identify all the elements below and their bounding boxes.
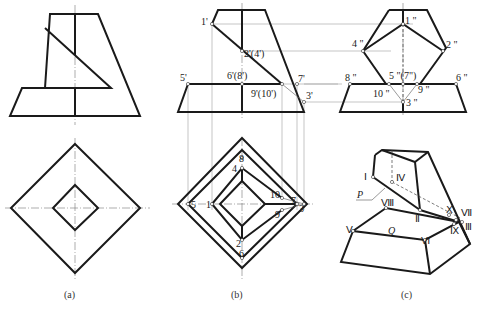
label-8: 8 (239, 153, 244, 164)
iso-upper-edge (415, 162, 420, 210)
label-6: 6 (239, 248, 244, 259)
caption-b: (b) (231, 289, 243, 301)
label-7: 7 (291, 195, 296, 206)
label-3-prime: 3' (306, 90, 313, 101)
label-9-10-prime: 9'(10') (251, 88, 276, 100)
iso-upper-edge (415, 152, 428, 162)
label-1-prime: 1' (201, 16, 208, 27)
label-IX: Ⅸ (450, 225, 459, 236)
label-4: 4 (232, 163, 237, 174)
label-10: 10 (270, 189, 280, 200)
label-3: 3 (299, 203, 304, 214)
label-8-dbl: 8 " (345, 72, 357, 83)
view-c: Ⅰ Ⅳ P Ⅷ Ⅱ Ⅹ Ⅶ Ⅲ Ⅸ Ⅴ Q Ⅵ (c) (341, 150, 472, 301)
label-V: Ⅴ (346, 224, 353, 235)
label-9: 9 (275, 209, 280, 220)
label-III: Ⅲ (465, 221, 472, 232)
technical-drawing: (a) 1' 2'(4') 5' 6' (0, 0, 480, 311)
label-6-8-prime: 6'(8') (227, 70, 247, 82)
caption-a: (a) (64, 289, 75, 301)
label-II: Ⅱ (415, 213, 420, 224)
label-1: 1 (206, 199, 211, 210)
label-4-dbl: 4 " (352, 38, 364, 49)
iso-upper-edge (373, 155, 375, 177)
top-view-outer-square (11, 144, 140, 273)
caption-c: (c) (401, 289, 412, 301)
label-2-dbl: 2 " (446, 39, 458, 50)
label-VIII: Ⅷ (381, 197, 394, 208)
label-5-prime: 5' (180, 72, 187, 83)
label-5-7-dbl: 5 "(7") (389, 70, 416, 82)
top-view-inner-square (53, 185, 98, 230)
label-6-dbl: 6 " (456, 72, 468, 83)
intersection-line (282, 84, 304, 102)
label-VI: Ⅵ (421, 235, 430, 246)
label-9-dbl: 9 " (418, 84, 430, 95)
label-10-dbl: 10 " (373, 88, 390, 99)
label-2-4-prime: 2'(4') (244, 48, 264, 60)
label-3-dbl: 3 " (406, 97, 418, 108)
iso-lower-top-face (353, 208, 459, 240)
side-view-upper (363, 10, 389, 84)
label-1-dbl: 1 " (405, 15, 417, 26)
label-5: 5 (191, 199, 196, 210)
view-a: (a) (5, 5, 150, 301)
label-VII: Ⅶ (461, 207, 472, 218)
label-7-prime: 7' (298, 73, 305, 84)
label-IV: Ⅳ (396, 172, 406, 183)
label-I: Ⅰ (364, 171, 367, 182)
label-X: Ⅹ (446, 204, 453, 215)
label-Q: Q (388, 225, 396, 236)
label-P: P (356, 189, 363, 200)
